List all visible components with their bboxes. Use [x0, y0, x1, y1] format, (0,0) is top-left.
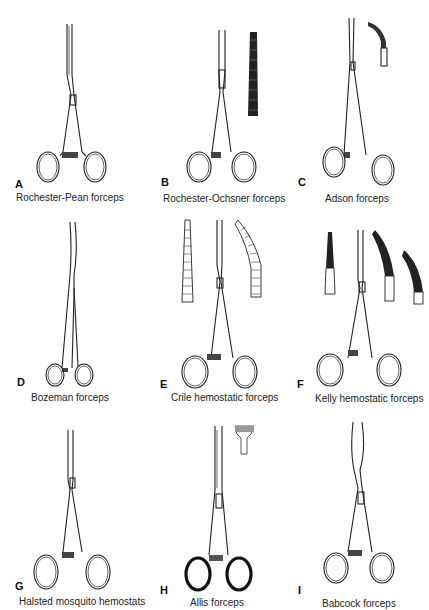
panel-letter: C [298, 176, 306, 188]
panel-e: E Crile hemostatic forceps [143, 200, 286, 410]
partial-serrated-tip-detail-3 [402, 250, 423, 292]
curved-tip-detail [368, 22, 386, 48]
panel-caption: Babcock forceps [322, 598, 396, 609]
adson-forceps-illustration [286, 0, 429, 200]
kelly-hemostatic-forceps-illustration [286, 200, 429, 410]
serrated-tip-detail [248, 32, 258, 116]
panel-letter: I [298, 584, 301, 596]
panel-letter: H [160, 584, 168, 596]
panel-c: C Adson forceps [286, 0, 429, 200]
babcock-forceps-illustration [286, 400, 429, 610]
rochester-ochsner-forceps-illustration [143, 0, 286, 200]
panel-caption: Allis forceps [190, 597, 244, 608]
panel-f: F Kelly hemostatic forceps [286, 200, 429, 410]
rochester-pean-forceps-illustration [0, 0, 143, 200]
panel-letter: D [17, 376, 25, 388]
curved-serrated-tip-detail [235, 220, 261, 297]
panel-caption: Halsted mosquito hemostats [19, 596, 145, 607]
partial-serrated-tip-detail-1 [326, 232, 334, 268]
halsted-mosquito-hemostats-illustration [0, 400, 143, 610]
panel-a: A Rochester-Pean forceps [0, 0, 143, 200]
partial-serrated-tip-detail-2 [372, 230, 394, 276]
panel-letter: A [15, 178, 23, 190]
panel-letter: F [297, 378, 304, 390]
panel-d: D Bozeman forceps [0, 200, 143, 410]
panel-letter: E [160, 378, 167, 390]
panel-letter: B [161, 176, 169, 188]
straight-serrated-tip-detail [182, 220, 193, 302]
allis-forceps-illustration [143, 400, 286, 610]
panel-h: H Allis forceps [143, 400, 286, 610]
panel-i: I Babcock forceps [286, 400, 429, 610]
panel-letter: G [15, 580, 24, 592]
panel-b: B Rochester-Ochsner forceps [143, 0, 286, 200]
panel-g: G Halsted mosquito hemostats [0, 400, 143, 610]
